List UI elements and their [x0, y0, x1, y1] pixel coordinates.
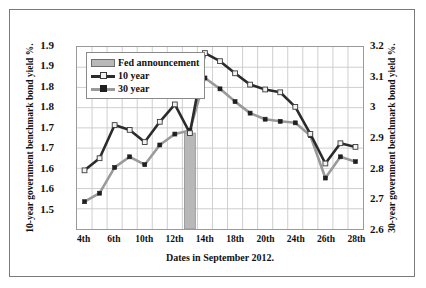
x-axis-tick-label: 28th [347, 235, 365, 245]
x-axis-tick-label: 12th [166, 235, 184, 245]
y-axis-right-tick-label: 3.2 [370, 40, 410, 51]
y-axis-left-tick-label: 1.8 [14, 101, 54, 112]
y-axis-left-title: 10-year government benchmark bond yield … [24, 46, 38, 230]
legend-item-label: 30 year [118, 83, 149, 94]
legend-item: Fed announcement [91, 56, 199, 69]
y-axis-right-tick-label: 2.7 [370, 193, 410, 204]
legend-item-label: Fed announcement [118, 57, 199, 68]
x-axis-tick-label: 20th [256, 235, 274, 245]
legend-item: 30 year [91, 82, 199, 95]
y-axis-left-tick-label: 1.9 [14, 40, 54, 51]
legend-swatch-line-icon [91, 71, 115, 80]
chart-legend: Fed announcement10 year30 year [86, 52, 205, 99]
x-axis-tick-label: 4th [77, 235, 90, 245]
y-axis-left-tick-label: 1.6 [14, 183, 54, 194]
legend-swatch-bar-icon [91, 59, 115, 67]
y-axis-left-tick-label: 1.5 [14, 204, 54, 215]
x-axis-tick-label: 14th [196, 235, 214, 245]
x-axis-tick-label: 18th [226, 235, 244, 245]
y-axis-left-tick-label: 1.9 [14, 60, 54, 71]
x-axis-tick-label: 6th [107, 235, 120, 245]
x-axis-tick-label: 10th [135, 235, 153, 245]
y-axis-right-tick-label: 2.8 [370, 163, 410, 174]
y-axis-left-tick-label: 1.7 [14, 142, 54, 153]
chart-frame: 10-year government benchmark bond yield … [9, 9, 415, 277]
y-axis-right-tick-label: 2.6 [370, 224, 410, 235]
legend-swatch-line-icon [91, 84, 115, 93]
x-axis-title: Dates in September 2012. [76, 253, 364, 263]
legend-item-label: 10 year [118, 70, 149, 81]
y-axis-left-tick-label: 1.7 [14, 122, 54, 133]
y-axis-left-tick-label: 1.8 [14, 81, 54, 92]
y-axis-left-tick-label: 1.6 [14, 163, 54, 174]
y-axis-right-tick-label: 2.9 [370, 132, 410, 143]
y-axis-right-tick-label: 3 [370, 101, 410, 112]
x-axis-tick-label: 24th [287, 235, 305, 245]
legend-item: 10 year [91, 69, 199, 82]
y-axis-right-tick-label: 3.1 [370, 71, 410, 82]
x-axis-tick-label: 26th [317, 235, 335, 245]
